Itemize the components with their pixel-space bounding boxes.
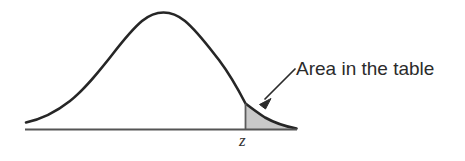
bell-curve-path bbox=[26, 13, 297, 129]
distribution-diagram bbox=[0, 0, 465, 161]
area-annotation-label: Area in the table bbox=[296, 58, 434, 80]
z-axis-label: z bbox=[239, 131, 246, 150]
normal-distribution-figure: Area in the table z bbox=[0, 0, 465, 161]
annotation-arrow bbox=[260, 69, 296, 109]
